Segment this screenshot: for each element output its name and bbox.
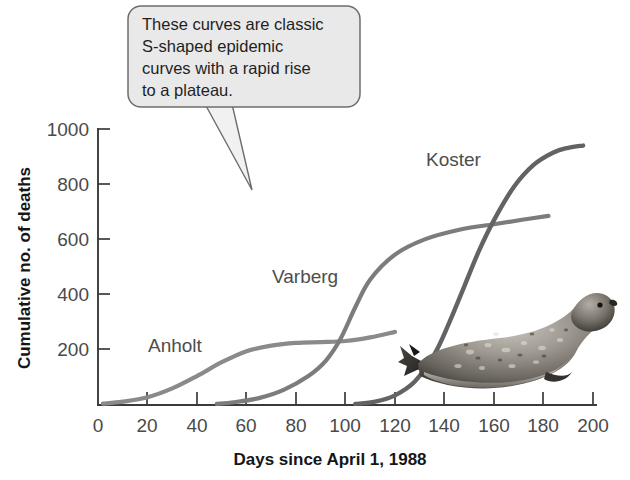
callout-line-4: to a plateau. [142,81,233,99]
x-tick-label-100: 100 [329,415,361,436]
x-tick-label-0: 0 [93,415,104,436]
callout-line-1: These curves are classic [142,15,324,33]
x-tick-label-160: 160 [478,415,510,436]
epidemic-curves-chart: 1000 800 600 400 200 0 20 40 60 [0,0,630,480]
x-tick-label-80: 80 [285,415,306,436]
y-ticks [98,129,110,349]
series-label-varberg: Varberg [272,266,338,287]
y-tick-label-600: 600 [57,229,89,250]
x-tick-label-20: 20 [136,415,157,436]
callout-line-3: curves with a rapid rise [142,59,311,77]
series-label-koster: Koster [426,149,482,170]
seal-fore-flipper [544,372,572,382]
x-tick-label-140: 140 [428,415,460,436]
seal-eye [597,302,602,307]
seal-tail-tip [409,344,420,356]
callout-line-2: S-shaped epidemic [142,37,283,55]
figure-root: 1000 800 600 400 200 0 20 40 60 [0,0,630,480]
harbor-seal-photo [398,293,617,388]
x-axis-title: Days since April 1, 1988 [233,450,426,469]
callout-annotation: These curves are classic S-shaped epidem… [128,6,360,190]
y-tick-label-200: 200 [57,339,89,360]
y-axis-title: Cumulative no. of deaths [15,167,34,369]
x-tick-label-120: 120 [379,415,411,436]
x-tick-label-200: 200 [577,415,609,436]
y-tick-label-1000: 1000 [47,119,89,140]
y-tick-label-400: 400 [57,284,89,305]
axis-group: 1000 800 600 400 200 0 20 40 60 [15,119,609,469]
x-tick-label-180: 180 [527,415,559,436]
seal-head [571,293,615,332]
series-label-anholt: Anholt [148,335,203,356]
x-tick-label-60: 60 [235,415,256,436]
callout-tail [205,104,252,190]
y-tick-label-800: 800 [57,174,89,195]
x-tick-label-40: 40 [186,415,207,436]
